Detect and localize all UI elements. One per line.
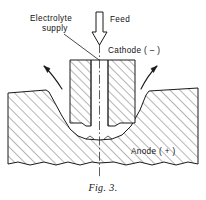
feed-label: Feed bbox=[110, 15, 130, 24]
ecm-diagram: Electrolyte supply Feed Cathode ( – ) An… bbox=[0, 0, 206, 200]
figure-caption: Fig. 3. bbox=[87, 182, 117, 193]
figure-container: Electrolyte supply Feed Cathode ( – ) An… bbox=[0, 0, 206, 200]
leader-line-icon bbox=[64, 34, 99, 60]
electrolyte-supply-label-line2: supply bbox=[42, 24, 68, 33]
curved-flow-arrow-left-icon bbox=[44, 66, 62, 89]
anode-label: Anode ( + ) bbox=[131, 147, 176, 156]
machined-gap-detail-right bbox=[104, 136, 112, 139]
curved-flow-arrow-right-icon bbox=[141, 66, 157, 89]
feed-arrow-icon bbox=[92, 12, 107, 45]
anode-workpiece-left bbox=[0, 80, 110, 175]
anode-left-hatching bbox=[0, 80, 110, 175]
cathode-left-hatching bbox=[66, 56, 98, 132]
cathode-label: Cathode ( – ) bbox=[108, 46, 160, 55]
electrolyte-supply-label-line1: Electrolyte bbox=[30, 14, 72, 23]
machined-gap-detail-left bbox=[86, 136, 94, 139]
cathode-tool bbox=[66, 56, 140, 132]
